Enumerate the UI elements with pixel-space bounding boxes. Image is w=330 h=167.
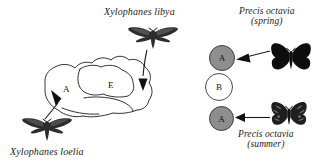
node-a-summer-label: A xyxy=(218,114,225,124)
node-a-spring-label: A xyxy=(219,53,226,63)
node-b-label: B xyxy=(216,82,222,92)
node-a-summer: A xyxy=(209,106,234,131)
arrow-summer-to-node-a xyxy=(235,113,270,122)
mimicry-polymorphism-figure: Xylophanes libya Xylophanes loelia A E xyxy=(0,0,330,167)
node-a-spring: A xyxy=(209,45,235,71)
butterfly-spring-wings xyxy=(271,43,311,69)
right-panel-linework xyxy=(0,0,330,167)
specimen-precis-octavia-summer xyxy=(270,101,308,130)
arrow-spring-to-node-a xyxy=(236,51,270,63)
butterfly-summer-wings xyxy=(271,102,306,125)
specimen-precis-octavia-spring xyxy=(270,42,312,76)
node-b: B xyxy=(205,73,233,101)
